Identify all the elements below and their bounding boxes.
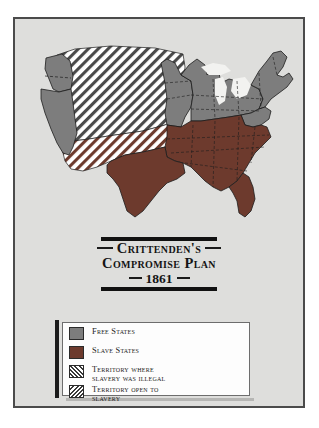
legend-label-territory-illegal: Territory where slavery was illegal [92,364,166,383]
legend-swatch-free-states [69,327,84,340]
poster-frame: Crittenden's Compromise Plan 1861 Free S… [13,17,305,408]
us-map-svg [15,21,303,237]
title-rule-bottom [101,287,217,291]
title-cartouche: Crittenden's Compromise Plan 1861 [15,237,303,291]
legend-item-territory-open: Territory open to slavery [63,384,249,401]
legend-spine [55,320,59,398]
legend-swatch-slave-states [69,346,84,359]
legend-swatch-territory-illegal [69,365,84,378]
title-line-2: Compromise Plan [15,256,303,271]
year-flank-left [129,277,142,279]
legend-item-free-states: Free States [63,326,249,342]
title-text-crittendens: Crittenden's [117,241,201,256]
legend-item-slave-states: Slave States [63,345,249,361]
map-figure [15,21,303,237]
legend-item-territory-illegal: Territory where slavery was illegal [63,364,249,381]
title-flank-right [205,247,221,249]
region-pacific-free-states [45,54,73,92]
legend-swatch-territory-open [69,385,84,398]
legend-label-free-states: Free States [92,326,135,337]
legend-label-slave-states: Slave States [92,345,139,356]
title-text-compromise-plan: Compromise Plan [102,256,216,271]
title-flank-left [97,247,113,249]
legend-box: Free States Slave States Territory where… [62,322,250,396]
year-flank-right [177,277,190,279]
title-line-year: 1861 [15,272,303,286]
title-line-1: Crittenden's [15,241,303,256]
legend-label-territory-open: Territory open to slavery [92,384,159,403]
region-pacific-coast-free [41,89,77,155]
title-text-year: 1861 [146,272,173,286]
